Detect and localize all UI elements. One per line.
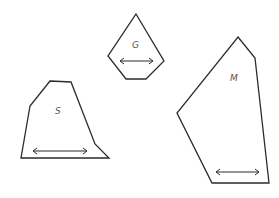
shape-m-outline [177,37,269,183]
shape-s-label: S [55,106,61,116]
shape-m-label: M [230,73,238,83]
shape-g-label: G [132,40,139,50]
shapes-diagram: G S M [0,0,279,198]
shape-s: S [21,81,109,158]
shape-m: M [177,37,269,183]
shape-g: G [108,14,164,79]
double-arrow-icon [33,148,87,154]
shape-s-outline [21,81,109,158]
double-arrow-icon [216,169,259,175]
double-arrow-icon [120,58,153,64]
